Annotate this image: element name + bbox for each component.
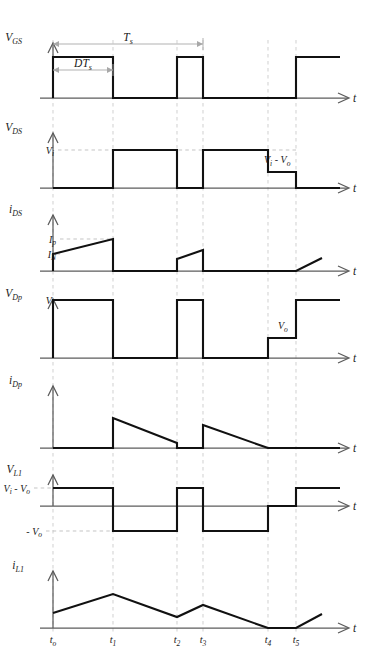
axis-title-il1: iL1: [12, 559, 24, 574]
waveform-il1: [53, 594, 322, 628]
waveform-svg: tVGStVDSViVi - VotiDSIpINtVDpViVotiDptVL…: [0, 0, 372, 666]
time-marker-t_2: t2: [174, 634, 181, 648]
time-marker-t_5: t5: [293, 634, 300, 648]
waveform-idp: [53, 418, 340, 448]
waveform-layer: [53, 57, 340, 628]
annotation-vdp-vo-level: Vo: [278, 320, 288, 334]
time-marker-t_1: t1: [110, 634, 117, 648]
waveform-figure: tVGStVDSViVi - VotiDSIpINtVDpViVotiDptVL…: [0, 0, 372, 666]
time-marker-t_4: t4: [265, 634, 272, 648]
level-dash-layer: [34, 150, 296, 531]
level-label-ids-in: IN: [47, 249, 57, 263]
level-label-ids-ip: Ip: [48, 234, 56, 248]
waveform-ids: [53, 239, 322, 271]
axis-title-idp: iDp: [9, 374, 22, 389]
waveform-vgs: [53, 57, 340, 98]
axis-title-vgs: VGS: [5, 31, 22, 46]
level-label-vl1-minus-vo: - Vo: [26, 526, 42, 540]
waveform-vds: [53, 150, 340, 188]
gridline-layer: [53, 40, 296, 634]
waveform-vdp: [53, 300, 340, 358]
axis-label-t-idp: t: [353, 442, 357, 454]
level-label-vl1-vi-minus-vo: Vi - Vo: [4, 483, 31, 497]
axis-label-t-vdp: t: [353, 352, 357, 364]
axis-label-t-ids: t: [353, 265, 357, 277]
time-marker-t_o: to: [50, 634, 57, 648]
axis-title-vds: VDS: [5, 121, 22, 136]
axis-label-t-il1: t: [353, 622, 357, 634]
axes-layer: [40, 43, 349, 633]
axis-label-t-vl1: t: [353, 500, 357, 512]
axis-title-vdp: VDp: [5, 287, 22, 302]
waveform-vl1: [53, 488, 340, 531]
text-label-layer: tVGStVDSViVi - VotiDSIpINtVDpViVotiDptVL…: [4, 31, 357, 648]
axis-title-ids: iDS: [9, 203, 22, 218]
dimension-arrow-end-switching-period: [197, 41, 203, 47]
axis-label-t-vgs: t: [353, 92, 357, 104]
axis-label-t-vds: t: [353, 182, 357, 194]
axis-title-vl1: VL1: [7, 463, 22, 478]
time-marker-t_3: t3: [200, 634, 207, 648]
